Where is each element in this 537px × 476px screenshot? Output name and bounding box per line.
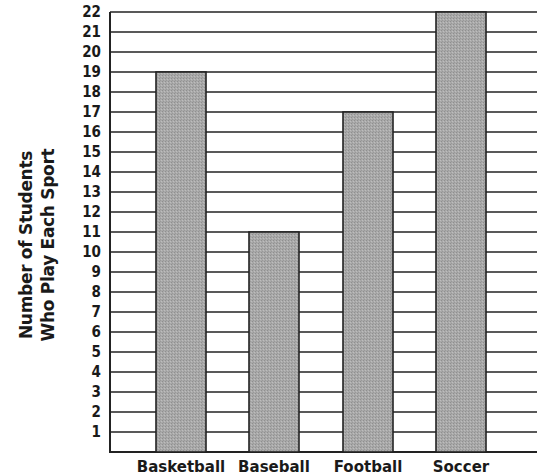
bar-chart: 12345678910111213141516171819202122 Bask…	[0, 0, 537, 476]
y-axis-label: Number of Students Who Play Each Sport	[15, 149, 59, 342]
y-tick-label: 9	[92, 263, 101, 281]
y-tick-label: 16	[82, 123, 101, 141]
bar-baseball	[249, 232, 299, 452]
y-tick-label: 19	[82, 63, 101, 81]
x-tick-labels: BasketballBaseballFootballSoccer	[137, 458, 490, 476]
y-tick-label: 14	[82, 163, 101, 181]
y-axis-label-container: Number of Students Who Play Each Sport	[2, 130, 72, 360]
y-tick-label: 20	[82, 43, 101, 61]
y-tick-label: 5	[92, 343, 101, 361]
y-tick-label: 22	[82, 3, 101, 21]
y-tick-label: 10	[82, 243, 101, 261]
y-tick-label: 3	[92, 383, 101, 401]
y-tick-label: 4	[92, 363, 101, 381]
y-tick-label: 12	[82, 203, 101, 221]
bar-football	[343, 112, 393, 452]
bar-soccer	[436, 12, 486, 452]
x-tick-label: Baseball	[238, 458, 310, 476]
y-tick-label: 1	[92, 423, 101, 441]
y-tick-label: 15	[82, 143, 101, 161]
x-tick-label: Football	[334, 458, 403, 476]
y-tick-label: 18	[82, 83, 101, 101]
y-tick-label: 13	[82, 183, 101, 201]
y-tick-label: 7	[92, 303, 101, 321]
y-tick-label: 21	[82, 23, 101, 41]
x-tick-label: Basketball	[137, 458, 226, 476]
y-tick-labels: 12345678910111213141516171819202122	[82, 3, 101, 441]
y-tick-label: 11	[82, 223, 101, 241]
y-axis-label-line-1: Number of Students	[15, 149, 37, 342]
bar-basketball	[156, 72, 206, 452]
y-tick-label: 6	[92, 323, 101, 341]
y-axis-label-line-2: Who Play Each Sport	[37, 149, 59, 342]
chart-canvas: 12345678910111213141516171819202122 Bask…	[0, 0, 537, 476]
y-tick-label: 8	[92, 283, 101, 301]
y-tick-label: 2	[92, 403, 101, 421]
y-tick-label: 17	[82, 103, 101, 121]
x-tick-label: Soccer	[433, 458, 490, 476]
